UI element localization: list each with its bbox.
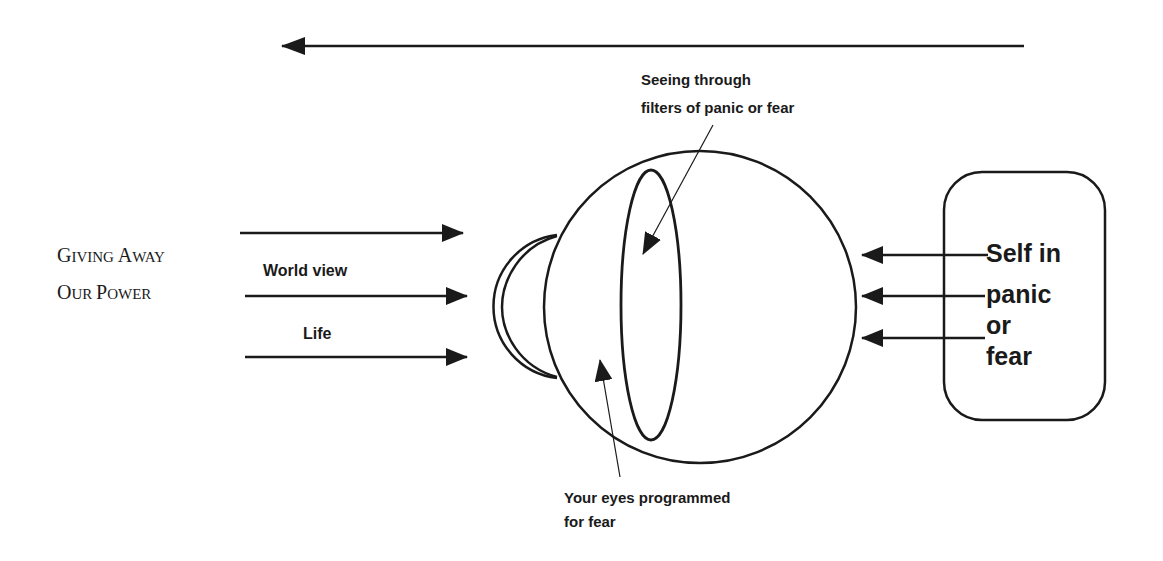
self-box-line-4: fear: [986, 342, 1032, 370]
giving-away-power-diagram: GIVING AWAY OUR POWER World view Life Se…: [0, 0, 1163, 561]
annotation-programmed-line-2: for fear: [564, 513, 616, 530]
annotation-filters: Seeing through filters of panic or fear: [641, 71, 795, 254]
self-box-line-3: or: [986, 311, 1011, 339]
label-world-view: World view: [263, 262, 348, 279]
cornea-outline: [502, 236, 557, 377]
annotation-filters-line-1: Seeing through: [641, 71, 751, 88]
self-box-line-1: Self in: [986, 239, 1061, 267]
diagram-title: GIVING AWAY OUR POWER: [57, 244, 165, 303]
annotation-filters-line-2: filters of panic or fear: [641, 99, 795, 116]
self-box: Self in panic or fear: [862, 172, 1105, 420]
annotation-programmed-line-1: Your eyes programmed: [564, 489, 730, 506]
pointer-arrow-icon: [600, 360, 620, 477]
eye-illustration: [493, 151, 856, 463]
left-input-arrows: World view Life: [240, 233, 467, 357]
eyeball: [544, 151, 856, 463]
title-line-2: OUR POWER: [57, 281, 151, 303]
lens-filter: [621, 170, 681, 440]
self-box-line-2: panic: [986, 280, 1051, 308]
title-line-1: GIVING AWAY: [57, 244, 165, 266]
label-life: Life: [303, 325, 332, 342]
annotation-programmed: Your eyes programmed for fear: [564, 360, 730, 530]
